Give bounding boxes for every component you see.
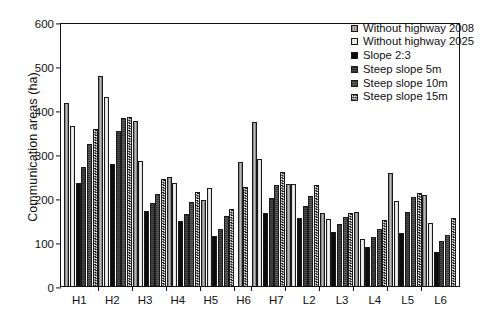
legend-swatch-icon [351,80,358,87]
x-tick-label: H1 [63,294,96,306]
legend-swatch-icon [351,25,358,32]
bar [93,129,98,286]
bar [76,183,81,286]
legend-label: Without highway 2008 [363,23,474,34]
x-tick-mark [166,286,167,291]
x-tick-label: L4 [358,294,391,306]
bar [212,236,217,286]
bar [207,188,212,286]
legend-swatch-icon [351,66,358,73]
bar [365,247,370,286]
bar [150,203,155,286]
bar [70,126,75,286]
bar [229,209,234,286]
bar [252,122,257,286]
legend-label: Steep slope 15m [363,91,448,102]
legend-item: Slope 2:3 [351,50,474,62]
x-tick-label: H2 [96,294,129,306]
legend-label: Slope 2:3 [363,50,411,61]
bar [314,185,319,286]
bar [81,167,86,286]
bar-group [201,24,235,286]
bar [133,121,138,286]
bar [110,164,115,286]
chart-legend: Without highway 2008Without highway 2025… [351,22,474,103]
bar [297,218,302,286]
bar [405,212,410,286]
bar [121,118,126,286]
legend-item: Steep slope 15m [351,91,474,103]
bar [411,197,416,286]
bar [257,159,262,286]
x-tick-label: H7 [260,294,293,306]
x-axis-labels: H1H2H3H4H5H6H7L2L3L4L5L6 [60,294,460,306]
bar [195,192,200,286]
x-tick-label: H4 [161,294,194,306]
legend-label: Steep slope 10m [363,78,448,89]
bar [274,185,279,286]
bar [155,194,160,286]
bar-group [320,24,354,286]
bar [184,214,189,286]
bar [263,213,268,286]
bar [377,229,382,286]
x-tick-label: L3 [326,294,359,306]
legend-label: Steep slope 5m [363,64,442,75]
bar [303,206,308,286]
legend-item: Without highway 2025 [351,36,474,48]
bar [178,221,183,286]
bar [144,211,149,286]
chart-figure: Communication areas (ha) 010020030040050… [0,0,483,311]
bar [434,252,439,286]
bar [224,216,229,286]
bar [451,218,456,286]
legend-swatch-icon [351,52,358,59]
legend-item: Without highway 2008 [351,22,474,34]
bar [172,183,177,286]
bar-group [285,24,319,286]
bar [394,201,399,286]
bar [116,131,121,286]
bar [218,229,223,286]
x-tick-mark [132,286,133,291]
x-tick-mark [285,286,286,291]
bar [104,97,109,286]
bar [127,117,132,286]
bar [417,193,422,286]
legend-label: Without highway 2025 [363,36,474,47]
y-tick-mark [56,287,61,288]
bar [189,202,194,286]
x-tick-mark [387,286,388,291]
x-tick-mark [200,286,201,291]
bar [87,144,92,286]
bar [269,198,274,286]
bar [354,212,359,286]
x-tick-label: H3 [129,294,162,306]
bar [320,213,325,286]
bar [286,184,291,286]
bar [138,161,143,286]
bar [399,233,404,286]
bar [280,172,285,286]
bar [439,241,444,286]
x-tick-mark [234,286,235,291]
x-tick-label: L5 [391,294,424,306]
bar [201,200,206,286]
bar [428,223,433,286]
bar [167,177,172,286]
bar [161,179,166,286]
bar [291,184,296,286]
bar [238,162,243,286]
bar [371,237,376,286]
bar [445,235,450,286]
bar-group [235,24,252,286]
bar [343,217,348,286]
x-tick-mark [319,286,320,291]
legend-swatch-icon [351,38,358,45]
bar-group [132,24,166,286]
x-tick-label: H6 [227,294,260,306]
legend-item: Steep slope 10m [351,77,474,89]
bar-group [166,24,200,286]
x-tick-label: L2 [293,294,326,306]
bar [422,195,427,286]
